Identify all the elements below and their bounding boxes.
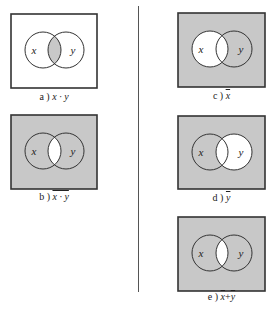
set-x-label: x (198, 43, 204, 55)
caption-a: a ) x · y (4, 91, 104, 102)
venn-panel-a: xy (10, 13, 98, 89)
set-x-label: x (198, 146, 204, 158)
set-y-label: y (238, 247, 244, 259)
caption-prefix: e ) (208, 291, 221, 302)
set-x-label: x (31, 44, 37, 56)
caption-expression: x · y (52, 191, 68, 202)
set-y-label: y (70, 145, 76, 157)
caption-e: e ) x+y (172, 291, 272, 302)
caption-b: b ) x · y (4, 191, 104, 202)
set-x-label: x (198, 247, 204, 259)
column-divider (138, 6, 139, 292)
venn-panel-d: xy (177, 115, 266, 190)
caption-prefix: b ) (39, 191, 52, 202)
set-y-label: y (70, 44, 76, 56)
set-y-label: y (238, 43, 244, 55)
caption-prefix: a ) (39, 91, 52, 102)
set-y-label: y (238, 146, 244, 158)
caption-expression: y (226, 192, 230, 203)
caption-expression: x · y (52, 91, 68, 102)
caption-term: y (231, 291, 235, 302)
caption-c: c ) x (172, 90, 272, 101)
venn-panel-c: xy (177, 12, 266, 88)
caption-prefix: d ) (213, 192, 226, 203)
caption-expression: x (226, 90, 230, 101)
set-x-label: x (31, 145, 37, 157)
caption-d: d ) y (172, 192, 272, 203)
caption-prefix: c ) (213, 90, 226, 101)
venn-panel-b: xy (10, 114, 98, 190)
venn-panel-e: xy (177, 216, 266, 292)
